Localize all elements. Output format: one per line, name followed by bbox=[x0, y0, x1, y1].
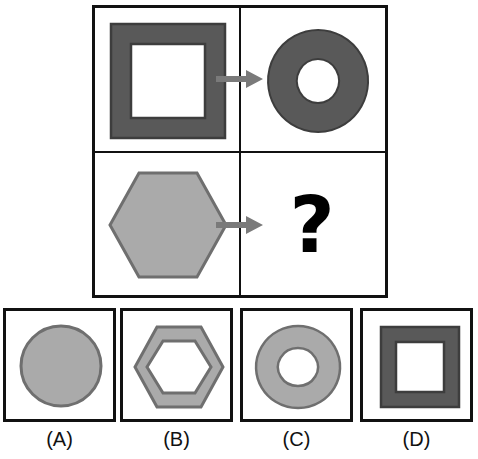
hexagon-ring-icon bbox=[132, 324, 226, 410]
option-c-label: (C) bbox=[240, 428, 353, 451]
hexagon-solid-icon bbox=[107, 170, 229, 280]
option-b-label: (B) bbox=[120, 428, 233, 451]
option-a[interactable]: (A) bbox=[3, 308, 116, 422]
circle-ring-icon bbox=[266, 28, 370, 134]
question-mark: ? bbox=[272, 175, 352, 275]
circle-solid-icon bbox=[19, 324, 103, 408]
option-a-box[interactable] bbox=[3, 308, 116, 422]
square-ring-dark-icon bbox=[379, 325, 461, 409]
square-ring-icon bbox=[109, 22, 227, 140]
option-d-box[interactable] bbox=[360, 308, 473, 422]
option-d-label: (D) bbox=[360, 428, 473, 451]
arrow-right-icon-row2 bbox=[216, 214, 264, 236]
option-b-box[interactable] bbox=[120, 308, 233, 422]
circle-ring-light-icon bbox=[254, 324, 342, 410]
puzzle-canvas: ? (A) (B) (C) bbox=[0, 0, 478, 459]
option-c[interactable]: (C) bbox=[240, 308, 353, 422]
option-d[interactable]: (D) bbox=[360, 308, 473, 422]
option-a-label: (A) bbox=[3, 428, 116, 451]
option-c-box[interactable] bbox=[240, 308, 353, 422]
option-b[interactable]: (B) bbox=[120, 308, 233, 422]
arrow-right-icon-row1 bbox=[216, 68, 264, 90]
